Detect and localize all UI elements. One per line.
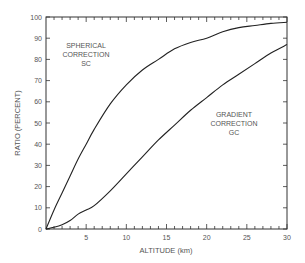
y-tick-label: 0: [38, 226, 42, 233]
x-tick-label: 30: [283, 234, 291, 241]
sc-label: SC: [81, 60, 91, 67]
sc-label: CORRECTION: [62, 51, 109, 58]
x-tick-label: 10: [122, 234, 130, 241]
chart: 0102030405060708090100 51015202530 SPHER…: [0, 0, 305, 263]
y-axis-label: RATIO (PERCENT): [13, 90, 22, 156]
y-tick-label: 50: [34, 120, 42, 127]
x-axis-label: ALTITUDE (km): [140, 246, 193, 255]
gc-label: CORRECTION: [210, 120, 257, 127]
x-tick-label: 15: [163, 234, 171, 241]
x-tick-label: 20: [203, 234, 211, 241]
y-tick-label: 30: [34, 162, 42, 169]
gc-label: GC: [229, 129, 240, 136]
y-tick-label: 80: [34, 56, 42, 63]
y-tick-label: 20: [34, 183, 42, 190]
sc-label: SPHERICAL: [66, 42, 106, 49]
y-tick-label: 70: [34, 77, 42, 84]
y-tick-label: 10: [34, 204, 42, 211]
y-tick-label: 60: [34, 98, 42, 105]
y-tick-label: 100: [30, 14, 42, 21]
gc-label: GRADIENT: [216, 111, 253, 118]
x-tick-label: 5: [84, 234, 88, 241]
x-tick-label: 25: [243, 234, 251, 241]
series-labels: SPHERICALCORRECTIONSCGRADIENTCORRECTIONG…: [62, 42, 257, 136]
y-tick-label: 90: [34, 35, 42, 42]
y-tick-label: 40: [34, 141, 42, 148]
gc-curve: [46, 45, 287, 229]
